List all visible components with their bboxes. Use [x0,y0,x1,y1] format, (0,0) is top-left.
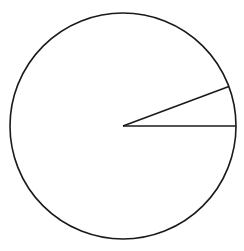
radius-angled [123,86,229,126]
circle-sector-diagram [0,0,244,251]
